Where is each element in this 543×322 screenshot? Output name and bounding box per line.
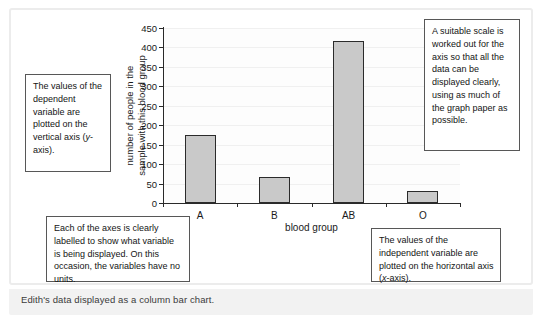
x-axis-tick-label: O — [419, 210, 427, 221]
y-axis-line — [163, 27, 164, 204]
y-axis-title-line2: sample with this blood group — [136, 55, 148, 175]
x-axis-tick-label: A — [197, 210, 204, 221]
gridline — [163, 47, 460, 48]
bar-A — [185, 135, 216, 203]
y-axis-title: number of people in the sample with this… — [112, 28, 160, 203]
gridline — [163, 86, 460, 87]
x-axis-tick-label: B — [271, 210, 278, 221]
y-axis-title-line1: number of people in the — [124, 66, 136, 166]
bar-O — [407, 191, 438, 203]
gridline — [163, 67, 460, 68]
gridline — [163, 125, 460, 126]
gridline — [163, 106, 460, 107]
bar-B — [259, 177, 290, 203]
x-axis-tick — [460, 203, 461, 207]
bar-chart: 050100150200250300350400450ABABO — [163, 28, 460, 203]
callout-dependent-variable: The values of the dependent variable are… — [25, 74, 111, 172]
callout-independent-variable: The values of the independent variable a… — [371, 228, 501, 282]
figure-caption: Edith's data displayed as a column bar c… — [21, 294, 214, 305]
x-axis-tick-label: AB — [342, 210, 355, 221]
bar-AB — [333, 41, 364, 203]
figure-container: 050100150200250300350400450ABABO number … — [0, 0, 543, 322]
gridline — [163, 28, 460, 29]
callout-axes-labelled: Each of the axes is clearly labelled to … — [46, 216, 190, 282]
callout-suitable-scale: A suitable scale is worked out for the a… — [424, 19, 520, 151]
x-axis-line — [163, 203, 460, 204]
